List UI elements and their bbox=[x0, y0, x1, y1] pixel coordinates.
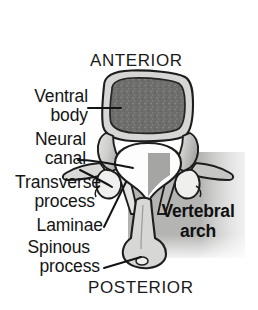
callout-spinous-process-line1: Spinous bbox=[4, 239, 90, 257]
callout-ventral-body-line1: Ventral bbox=[4, 88, 88, 106]
posterior-label: POSTERIOR bbox=[88, 279, 194, 296]
callout-transverse-process-line1: Transverse bbox=[0, 174, 101, 192]
callout-neural-canal-line2: canal bbox=[4, 150, 86, 168]
anterior-label: ANTERIOR bbox=[90, 52, 183, 69]
vertebral-arch-label-line2: arch bbox=[155, 223, 241, 241]
callout-neural-canal-line1: Neural bbox=[4, 131, 86, 149]
callout-laminae: Laminae bbox=[6, 217, 103, 235]
vertebral-arch-label-line1: Vertebral bbox=[155, 203, 241, 221]
vertebra-diagram-figure: ANTERIOR Ventral body Neural canal Trans… bbox=[0, 0, 258, 310]
ventral-body-shape bbox=[102, 70, 193, 141]
callout-spinous-process-line2: process bbox=[2, 258, 100, 276]
callout-transverse-process-line2: process bbox=[0, 193, 95, 211]
callout-ventral-body-line2: body bbox=[4, 107, 88, 125]
